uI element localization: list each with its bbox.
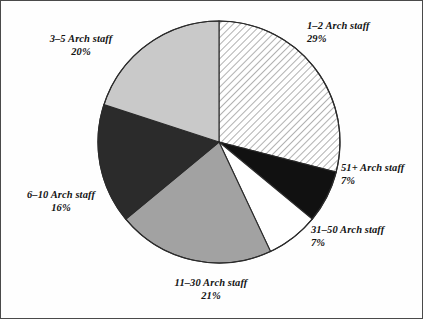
pie-label-percent: 16% <box>5 201 117 214</box>
pie-label-51-plus-arch-staff: 51+ Arch staff 7% <box>341 161 404 187</box>
pie-label-3-5-arch-staff: 3–5 Arch staff 20% <box>25 32 137 58</box>
pie-label-percent: 21% <box>147 289 275 302</box>
pie-label-text: 31–50 Arch staff <box>311 224 384 235</box>
pie-label-31-50-arch-staff: 31–50 Arch staff 7% <box>311 223 384 249</box>
pie-label-text: 1–2 Arch staff <box>307 20 370 31</box>
pie-label-percent: 29% <box>307 32 370 45</box>
pie-label-text: 6–10 Arch staff <box>27 189 95 200</box>
pie-chart-figure: 1–2 Arch staff 29% 3–5 Arch staff 20% 6–… <box>0 0 423 319</box>
pie-label-percent: 7% <box>341 174 404 187</box>
pie-label-percent: 20% <box>25 45 137 58</box>
pie-label-text: 11–30 Arch staff <box>175 277 248 288</box>
pie-label-text: 51+ Arch staff <box>341 162 404 173</box>
pie-label-percent: 7% <box>311 236 384 249</box>
pie-label-1-2-arch-staff: 1–2 Arch staff 29% <box>307 19 370 45</box>
pie-label-11-30-arch-staff: 11–30 Arch staff 21% <box>147 276 275 302</box>
pie-label-6-10-arch-staff: 6–10 Arch staff 16% <box>5 188 117 214</box>
pie-label-text: 3–5 Arch staff <box>50 33 113 44</box>
